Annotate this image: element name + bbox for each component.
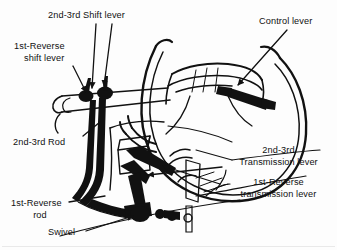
label-2nd-3rd-shift-lever: 2nd-3rd Shift lever	[48, 10, 125, 22]
label-2nd-3rd-transmission-lever-line1: 2nd-3rd	[226, 145, 331, 157]
label-1st-reverse-transmission-lever-line2: transmission lever	[222, 189, 335, 201]
leader-line-second-third-shift-lever-1	[104, 24, 112, 86]
label-1st-reverse-shift-lever-line1: 1st-Reverse	[14, 41, 65, 53]
label-1st-reverse-shift-lever-line2: shift lever	[24, 53, 64, 65]
label-swivel: Swivel	[48, 227, 75, 239]
leader-line-swivel-0	[86, 216, 133, 231]
leader-line-second-third-shift-lever-0	[92, 24, 96, 88]
bottom-frame-rule	[2, 246, 335, 247]
label-2nd-3rd-transmission-lever-line2: Transmission lever	[226, 157, 331, 169]
label-1st-reverse-rod-line2: rod	[11, 210, 69, 222]
label-1st-reverse-rod-line1: 1st-Reverse	[11, 198, 62, 210]
label-2nd-3rd-rod: 2nd-3rd Rod	[13, 137, 65, 149]
control-lever-part	[216, 86, 276, 110]
label-control-lever: Control lever	[259, 16, 312, 28]
label-1st-reverse-transmission-lever-line1: 1st-Reverse	[226, 177, 331, 189]
transmission-linkage-figure: 2nd-3rd Shift lever 1st-Reverse shift le…	[0, 0, 337, 250]
shift-lever-cluster	[79, 76, 114, 102]
second-third-rod	[72, 98, 106, 206]
leader-line-first-reverse-shift-lever-0	[73, 66, 86, 92]
